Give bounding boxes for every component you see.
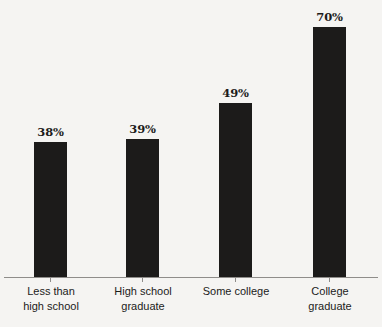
bar-group: 39%	[126, 0, 159, 277]
bar[interactable]	[313, 27, 346, 277]
bar[interactable]	[34, 142, 67, 277]
x-axis-label-line: graduate	[308, 299, 351, 314]
x-axis-label: College graduate	[308, 284, 351, 313]
bar-group: 70%	[313, 0, 346, 277]
bar-value-label: 49%	[222, 86, 248, 100]
x-axis-tick	[235, 278, 236, 282]
x-axis-line	[4, 277, 378, 278]
x-axis-label-line: graduate	[114, 299, 171, 314]
x-axis-label-line: College	[308, 284, 351, 299]
x-axis-label-line: Some college	[203, 284, 270, 299]
x-axis-tick	[142, 278, 143, 282]
x-axis-label-line: Less than	[23, 284, 79, 299]
x-axis-label-line: High school	[114, 284, 171, 299]
bar-chart: 38% 39% 49% 70% Less than high school Hi…	[0, 0, 382, 327]
bar-value-label: 70%	[316, 10, 342, 24]
x-axis-label: Some college	[203, 284, 270, 299]
bar-group: 49%	[219, 0, 252, 277]
bar-group: 38%	[34, 0, 67, 277]
x-axis-label: High school graduate	[114, 284, 171, 313]
bar[interactable]	[126, 139, 159, 277]
plot-area: 38% 39% 49% 70%	[0, 0, 382, 277]
bar-value-label: 39%	[129, 122, 155, 136]
x-axis-label: Less than high school	[23, 284, 79, 313]
bar-value-label: 38%	[37, 125, 63, 139]
bar[interactable]	[219, 103, 252, 277]
x-axis-tick	[329, 278, 330, 282]
x-axis-label-line: high school	[23, 299, 79, 314]
x-axis-tick	[50, 278, 51, 282]
